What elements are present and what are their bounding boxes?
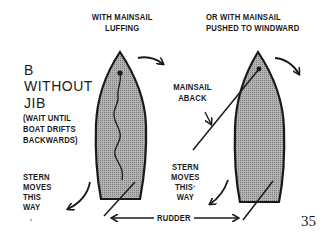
page-number: 35 (301, 213, 316, 230)
right-stern-arrow-icon (210, 180, 228, 204)
left-stern-label: STERN MOVES THIS WAY (23, 172, 51, 212)
section-letter: B (24, 62, 34, 79)
right-boat-hull (235, 52, 285, 202)
right-boat-caption: OR WITH MAINSAIL PUSHED TO WINDWARD (206, 12, 299, 34)
left-boat-caption: WITH MAINSAIL LUFFING (84, 12, 161, 34)
mainsail-aback-pointer-icon (205, 112, 211, 124)
mainsail-aback-label: MAINSAIL ABACK (172, 82, 213, 104)
right-bow-arrow-icon (275, 58, 299, 74)
section-note: (WAIT UNTIL BOAT DRIFTS BACKWARDS) (23, 113, 78, 146)
right-boat (193, 52, 284, 220)
left-stern-arrow-icon (68, 182, 90, 209)
section-title: WITHOUT JIB (24, 78, 93, 112)
rudder-label: RUDDER (157, 213, 191, 224)
right-stern-label: STERN MOVES THIS· WAY (170, 162, 201, 202)
left-boat (96, 52, 146, 216)
stray-dot (30, 219, 32, 221)
left-bow-arrow-icon (138, 57, 163, 64)
